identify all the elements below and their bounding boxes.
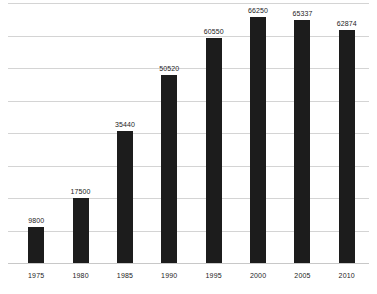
bar-value-label: 17500 [71, 188, 91, 196]
x-axis-tick: 2005 [280, 264, 324, 280]
bar-value-label: 66250 [248, 7, 268, 15]
x-axis-tick-label: 1980 [58, 272, 102, 280]
bar-value-label: 60550 [204, 28, 224, 36]
x-axis: 19751980198519901995200020052010 [0, 264, 377, 294]
x-axis-tick-label: 1975 [14, 272, 58, 280]
bar[interactable] [73, 198, 89, 263]
bar[interactable] [206, 38, 222, 263]
bar[interactable] [339, 30, 355, 264]
bar-group[interactable]: 50520 [147, 0, 191, 264]
plot-area: 980017500354405052060550662506533762874 [0, 0, 377, 264]
x-axis-tick-label: 1995 [192, 272, 236, 280]
bar[interactable] [161, 75, 177, 263]
bar[interactable] [250, 17, 266, 263]
bar-value-label: 50520 [159, 65, 179, 73]
bar-value-label: 65337 [293, 10, 313, 18]
bar-value-label: 9800 [28, 217, 44, 225]
bar-group[interactable]: 35440 [103, 0, 147, 264]
bar-group[interactable]: 66250 [236, 0, 280, 264]
bar-value-label: 35440 [115, 121, 135, 129]
bar-group[interactable]: 17500 [58, 0, 102, 264]
x-axis-tick-label: 2000 [236, 272, 280, 280]
bar-group[interactable]: 65337 [280, 0, 324, 264]
x-axis-tick: 2000 [236, 264, 280, 280]
bar-chart: 980017500354405052060550662506533762874 … [0, 0, 377, 294]
x-axis-tick-label: 2010 [325, 272, 369, 280]
x-axis-tick: 2010 [325, 264, 369, 280]
bar-group[interactable]: 9800 [14, 0, 58, 264]
bar-group[interactable]: 60550 [192, 0, 236, 264]
bar-value-label: 62874 [337, 20, 357, 28]
bar[interactable] [28, 227, 44, 263]
x-axis-tick: 1980 [58, 264, 102, 280]
x-axis-tick-label: 1990 [147, 272, 191, 280]
x-axis-tick: 1995 [192, 264, 236, 280]
bar[interactable] [117, 131, 133, 263]
x-axis-tick-label: 1985 [103, 272, 147, 280]
bar[interactable] [294, 20, 310, 263]
bars-group: 980017500354405052060550662506533762874 [0, 0, 377, 264]
bar-group[interactable]: 62874 [325, 0, 369, 264]
x-axis-tick: 1985 [103, 264, 147, 280]
x-axis-tick-label: 2005 [280, 272, 324, 280]
x-axis-tick: 1975 [14, 264, 58, 280]
x-axis-tick: 1990 [147, 264, 191, 280]
